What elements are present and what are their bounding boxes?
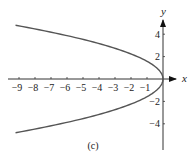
- y-tick-label: −2: [149, 96, 160, 107]
- x-tick-label: −3: [108, 82, 119, 93]
- x-tick-label: −2: [124, 82, 135, 93]
- y-tick-label: 2: [155, 51, 160, 62]
- parabola-chart: −9−8−7−6−5−4−3−2−1 −4−224 x y (c): [0, 0, 195, 157]
- x-tick-label: −8: [28, 82, 39, 93]
- y-tick-label: −4: [149, 118, 160, 129]
- x-tick-label: −1: [140, 82, 151, 93]
- x-tick-label: −7: [44, 82, 55, 93]
- x-tick-label: −9: [12, 82, 23, 93]
- x-axis-label: x: [181, 72, 187, 84]
- x-tick-label: −6: [60, 82, 71, 93]
- x-tick-label: −4: [92, 82, 103, 93]
- x-tick-label: −5: [76, 82, 87, 93]
- y-tick-label: 4: [155, 29, 160, 40]
- y-axis-label: y: [160, 5, 166, 17]
- figure-caption: (c): [87, 140, 98, 152]
